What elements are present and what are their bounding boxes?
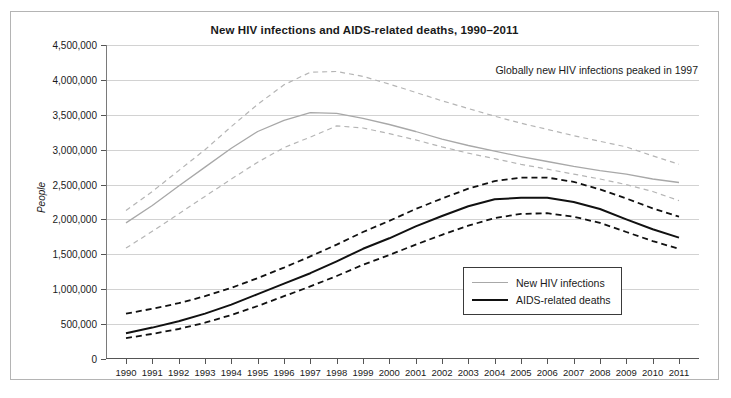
x-tick-label: 1993 — [194, 367, 215, 378]
legend-label: AIDS-related deaths — [516, 294, 611, 306]
legend-line-swatch — [472, 299, 508, 301]
x-tick-label: 2008 — [589, 367, 610, 378]
x-tick-label: 2009 — [616, 367, 637, 378]
x-tick-label: 2000 — [379, 367, 400, 378]
x-tick-mark — [179, 359, 180, 364]
x-tick-mark — [521, 359, 522, 364]
x-tick-mark — [495, 359, 496, 364]
x-tick-label: 1992 — [168, 367, 189, 378]
x-tick-mark — [416, 359, 417, 364]
x-tick-mark — [337, 359, 338, 364]
y-tick-label: 4,000,000 — [53, 74, 107, 85]
legend-line-swatch — [472, 282, 508, 283]
y-tick-label: 0 — [91, 354, 106, 365]
y-axis-label: People — [36, 158, 47, 238]
x-tick-mark — [258, 359, 259, 364]
y-tick-label: 1,500,000 — [53, 249, 107, 260]
x-tick-label: 1998 — [326, 367, 347, 378]
x-tick-mark — [442, 359, 443, 364]
x-tick-label: 1994 — [221, 367, 242, 378]
x-tick-label: 2011 — [669, 367, 689, 378]
x-tick-label: 2001 — [405, 367, 426, 378]
x-tick-mark — [126, 359, 127, 364]
x-tick-label: 2002 — [431, 367, 452, 378]
y-tick-label: 500,000 — [61, 319, 106, 330]
x-tick-mark — [363, 359, 364, 364]
x-tick-label: 2006 — [537, 367, 558, 378]
series-line — [126, 126, 679, 248]
chart-title: New HIV infections and AIDS-related deat… — [11, 24, 718, 36]
x-tick-mark — [152, 359, 153, 364]
x-tick-mark — [679, 359, 680, 364]
x-tick-mark — [284, 359, 285, 364]
series-line — [126, 72, 679, 211]
legend-item: New HIV infections — [472, 274, 611, 291]
x-tick-label: 1999 — [352, 367, 373, 378]
x-tick-mark — [547, 359, 548, 364]
chart-legend: New HIV infectionsAIDS-related deaths — [463, 267, 622, 315]
x-tick-label: 2004 — [484, 367, 505, 378]
y-tick-label: 3,000,000 — [53, 144, 107, 155]
series-line — [126, 113, 679, 223]
x-tick-mark — [310, 359, 311, 364]
y-tick-label: 3,500,000 — [53, 109, 107, 120]
legend-item: AIDS-related deaths — [472, 291, 611, 308]
x-tick-label: 2010 — [642, 367, 663, 378]
x-tick-label: 1991 — [142, 367, 163, 378]
x-tick-label: 2005 — [510, 367, 531, 378]
x-tick-label: 1997 — [300, 367, 321, 378]
x-tick-mark — [389, 359, 390, 364]
x-tick-label: 2007 — [563, 367, 584, 378]
x-tick-mark — [205, 359, 206, 364]
x-tick-label: 2003 — [458, 367, 479, 378]
y-tick-label: 2,500,000 — [53, 179, 107, 190]
y-tick-label: 2,000,000 — [53, 214, 107, 225]
x-tick-mark — [653, 359, 654, 364]
x-tick-label: 1990 — [115, 367, 136, 378]
x-tick-label: 1995 — [247, 367, 268, 378]
x-tick-mark — [574, 359, 575, 364]
x-tick-mark — [626, 359, 627, 364]
y-tick-label: 1,000,000 — [53, 284, 107, 295]
x-tick-mark — [468, 359, 469, 364]
y-tick-label: 4,500,000 — [53, 40, 107, 51]
chart-frame: New HIV infections and AIDS-related deat… — [10, 11, 719, 380]
legend-label: New HIV infections — [516, 277, 605, 289]
x-tick-label: 1996 — [273, 367, 294, 378]
x-tick-mark — [600, 359, 601, 364]
x-tick-mark — [231, 359, 232, 364]
